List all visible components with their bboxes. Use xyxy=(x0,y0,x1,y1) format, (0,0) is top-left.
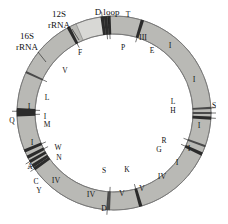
trna-letter-labels: TPELSHRGKSDYCANWMIQLVF xyxy=(9,10,216,213)
tick-s2: S xyxy=(102,166,106,175)
tick-w: W xyxy=(54,143,62,152)
callout-rrna-16s-line2: rRNA xyxy=(16,42,38,52)
callout-rrna-12s-line1: 12S xyxy=(52,9,66,19)
tick-n: N xyxy=(56,153,62,162)
callout-rrna-16s-line1: 16S xyxy=(20,31,34,41)
tick-c: C xyxy=(33,177,38,186)
label-i-6: I xyxy=(31,138,34,147)
tickline-trna-n xyxy=(44,147,48,149)
tick-s1: S xyxy=(212,101,216,110)
tick-l1: L xyxy=(171,97,176,106)
tickline-trna-r xyxy=(184,138,189,140)
label-iv-3: IV xyxy=(52,176,61,185)
tick-h: H xyxy=(170,106,176,115)
label-i-3: I xyxy=(198,121,201,130)
tick-f: F xyxy=(78,48,82,57)
tick-e: E xyxy=(150,46,155,55)
callout-rrna-12s-line2: rRNA xyxy=(48,20,70,30)
label-iv-2: IV xyxy=(87,190,96,199)
mitochondrial-genome-map-figure: IIIIIIIIIVVVIVIVII TPELSHRGKSDYCANWMIQLV… xyxy=(0,0,228,224)
tickline-trna-k xyxy=(134,184,135,189)
tickline-trna-l-left xyxy=(42,80,47,82)
tick-d: D xyxy=(101,204,107,213)
genome-circle-diagram: IIIIIIIIIVVVIVIVII TPELSHRGKSDYCANWMIQLV… xyxy=(0,0,228,224)
label-i-2: I xyxy=(193,75,196,84)
tick-t: T xyxy=(126,10,131,19)
band-trna-s-right xyxy=(193,112,212,114)
label-v-2: V xyxy=(119,189,125,198)
label-iii: III xyxy=(139,33,147,42)
tick-y: Y xyxy=(36,186,42,195)
tickline-trna-w xyxy=(41,142,46,144)
label-iv-1: IV xyxy=(158,172,167,181)
tickline-trna-g xyxy=(181,144,186,146)
tick-k: K xyxy=(124,165,130,174)
trna-band-group xyxy=(12,12,216,215)
tickline-trna-e xyxy=(136,37,137,42)
label-i-1: I xyxy=(169,41,172,50)
tick-g: G xyxy=(156,145,162,154)
tick-q: Q xyxy=(9,116,15,125)
tick-m: M xyxy=(44,120,51,129)
tick-v: V xyxy=(62,66,68,75)
tick-p: P xyxy=(121,43,125,52)
tick-l2: L xyxy=(45,93,50,102)
tick-a: A xyxy=(27,162,33,171)
tick-r: R xyxy=(161,136,166,145)
callout-d-loop: D loop xyxy=(95,7,120,17)
label-i-4: I xyxy=(188,144,191,153)
label-v-1: V xyxy=(139,184,145,193)
label-i-5: I xyxy=(176,158,179,167)
label-i-7: I xyxy=(28,102,31,111)
